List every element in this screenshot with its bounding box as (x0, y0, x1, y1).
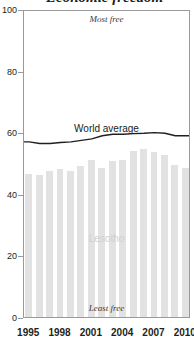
series-label-world-average: World average (24, 123, 189, 134)
y-axis-label: 60 (7, 128, 17, 138)
x-axis-label: 1998 (48, 327, 70, 338)
page-title: Economic freedom (46, 0, 163, 6)
x-axis-label: 2007 (142, 327, 164, 338)
line-series-world-average (24, 11, 190, 318)
annotation-most-free: Most free (24, 14, 189, 24)
economic-freedom-chart: Economic freedom Most free Least free Wo… (0, 0, 194, 345)
y-axis-label: 100 (2, 5, 17, 15)
x-axis-label: 2010 (174, 327, 194, 338)
y-axis-tick (18, 133, 23, 134)
x-axis-label: 2004 (111, 327, 133, 338)
series-label-lesotho: Lesotho (24, 233, 189, 244)
x-axis-label: 2001 (80, 327, 102, 338)
y-axis-tick (18, 256, 23, 257)
chart-title-clipped: Economic freedom (0, 0, 194, 9)
y-axis-tick (18, 10, 23, 11)
annotation-least-free: Least free (24, 303, 189, 313)
y-axis-label: 20 (7, 251, 17, 261)
y-axis-label: 40 (7, 190, 17, 200)
x-axis-label: 1995 (17, 327, 39, 338)
y-axis-label: 0 (12, 313, 17, 323)
y-axis-tick (18, 318, 23, 319)
y-axis-label: 80 (7, 67, 17, 77)
y-axis-tick (18, 195, 23, 196)
y-axis-tick (18, 72, 23, 73)
plot-area: Most free Least free World average Lesot… (23, 10, 190, 318)
